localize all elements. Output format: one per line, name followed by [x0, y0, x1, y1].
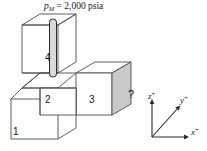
pressure-subscript: M [49, 5, 54, 12]
axis-x-sign: + [195, 126, 199, 133]
pressure-unit: psia [88, 1, 103, 11]
block-3 [76, 62, 131, 115]
axis-y-sign: + [184, 94, 188, 101]
manometer-tube [50, 19, 57, 77]
manometer-tube-body [50, 19, 57, 77]
block-1-left-top-edge [11, 88, 22, 99]
figure-canvas: pM = 2,000 psia 1 2 3 4 ? z+ y+ x+ [0, 0, 207, 151]
block-label-3: 3 [89, 95, 95, 105]
block-4-right-bottom-edge [58, 62, 76, 73]
block-label-1: 1 [13, 127, 19, 137]
coordinate-axes [150, 99, 189, 139]
pressure-value: 2,000 [64, 1, 85, 11]
axis-z-sign: + [152, 90, 156, 97]
pressure-label: pM = 2,000 psia [44, 2, 103, 12]
block-label-2: 2 [45, 95, 51, 105]
axis-y-line [152, 108, 178, 137]
axis-label-y: y+ [180, 95, 188, 105]
block-1-top-face [22, 73, 76, 88]
block-diagram-svg [0, 0, 207, 151]
axis-x-arrowhead [184, 135, 189, 140]
pressure-equals: = [57, 1, 62, 11]
axis-label-z: z+ [148, 91, 155, 101]
unknown-marker: ? [128, 89, 134, 100]
axis-label-x: x+ [191, 127, 199, 137]
block-label-4: 4 [45, 53, 51, 63]
block-1-bottom-right-edge [58, 128, 76, 139]
